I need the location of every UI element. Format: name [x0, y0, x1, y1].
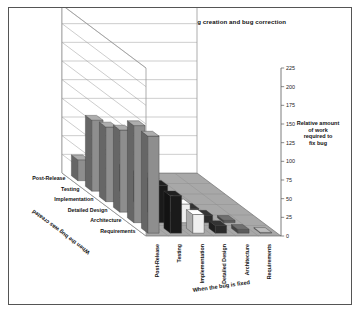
depth-axis-category-label: Requirements — [100, 228, 135, 234]
series-axis-category-label: Requirements — [266, 244, 272, 279]
value-axis-tick-label: 0 — [286, 233, 289, 239]
value-axis-title-line-1: Relative amount — [287, 120, 349, 127]
chart-canvas: 0255075100125150175200225RequirementsArc… — [9, 8, 353, 306]
value-axis-title-line-3: required to — [287, 133, 349, 140]
series-axis-category-label: Architecture — [244, 244, 250, 275]
series-axis-category-label: Testing — [176, 244, 182, 262]
value-axis-tick-label: 200 — [286, 84, 295, 90]
depth-axis-title: When the bug was created — [30, 208, 91, 255]
bar-side-face — [164, 191, 170, 233]
depth-axis-category-label: Architecture — [90, 217, 121, 223]
series-axis-category-label: Implementation — [199, 244, 205, 283]
bar-front-face — [148, 136, 159, 233]
depth-axis-category-label: Post-Release — [32, 175, 65, 181]
bar-front-face — [193, 215, 204, 234]
bar-side-face — [141, 131, 147, 233]
bar-front-face — [224, 220, 235, 222]
bar-front-face — [238, 229, 249, 233]
bar-side-face — [85, 115, 91, 191]
bar-side-face — [127, 121, 133, 223]
bar-side-face — [99, 122, 105, 201]
value-axis-title-line-2: of work — [287, 127, 349, 134]
value-axis-tick-label: 175 — [286, 102, 295, 108]
value-axis-tick-label: 25 — [286, 214, 292, 220]
value-axis-title-line-4: fix bug — [287, 140, 349, 147]
bar-front-face — [215, 226, 226, 233]
chart-stage: The increase in cost due to a delay in b… — [9, 8, 353, 306]
series-axis-category-label: Post-Release — [154, 244, 160, 277]
value-axis-tick-label: 50 — [286, 196, 292, 202]
value-axis-tick-label: 75 — [286, 177, 292, 183]
bar-side-face — [113, 125, 119, 212]
value-axis-tick-label: 225 — [286, 65, 295, 71]
footnote — [10, 308, 350, 318]
value-axis-title: Relative amount of work required to fix … — [287, 120, 349, 146]
value-axis-tick-label: 100 — [286, 158, 295, 164]
depth-axis-category-label: Implementation — [54, 196, 93, 202]
series-axis-category-label: Detailed Design — [221, 244, 227, 284]
bar-front-face — [170, 196, 181, 233]
depth-axis-category-label: Detailed Design — [68, 207, 108, 213]
depth-axis-category-label: Testing — [61, 186, 79, 192]
chart-frame: The increase in cost due to a delay in b… — [8, 7, 352, 305]
